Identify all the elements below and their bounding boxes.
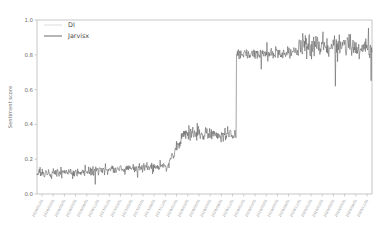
y-tick-label: 0.6 xyxy=(24,87,33,93)
legend-label-jarvisx: Jarvisx xyxy=(67,32,89,40)
y-tick-label: 0.2 xyxy=(24,156,33,162)
y-tick-label: 1.0 xyxy=(24,17,33,23)
chart-figure: 0.00.20.40.60.81.0 2016/01/012016/03/012… xyxy=(0,0,381,241)
y-axis-label: Sentiment score xyxy=(7,86,13,128)
y-tick-label: 0.4 xyxy=(24,121,33,127)
sentiment-score-line-chart: 0.00.20.40.60.81.0 2016/01/012016/03/012… xyxy=(0,0,381,241)
y-tick-label: 0.8 xyxy=(24,52,33,58)
legend-label-di: DI xyxy=(68,21,75,29)
y-tick-label: 0.0 xyxy=(24,191,33,197)
